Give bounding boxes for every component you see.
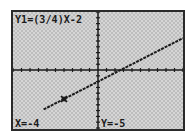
trace-x-value: X=-4	[15, 118, 39, 129]
equation-label: Y1=(3/4)X-2	[15, 14, 82, 25]
trace-y-value: Y=-5	[101, 118, 125, 129]
trace-cursor	[61, 96, 67, 102]
calculator-graph-screen: Y1=(3/4)X-2 X=-4 Y=-5	[11, 10, 185, 131]
graph-plot	[13, 12, 183, 129]
